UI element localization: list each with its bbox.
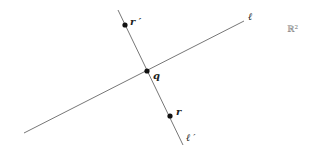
point-q [144,68,149,73]
point-r [167,113,172,118]
label-r: r [176,106,182,117]
line-ell-prime [118,10,183,145]
label-q: q [153,70,160,81]
label-ell: ℓ [248,11,252,22]
line-ell [24,21,244,133]
label-space-r2: ℝ² [287,24,298,34]
point-r-prime [122,22,127,27]
label-ell-prime: ℓ ′ [186,132,196,143]
label-r-prime: r ′ [130,16,142,27]
diagram-canvas: q r ′ r ℓ ℓ ′ ℝ² [0,0,322,157]
